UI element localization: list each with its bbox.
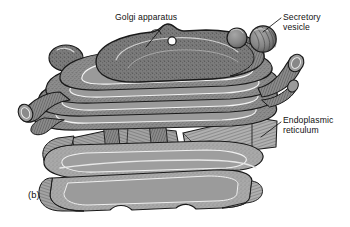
figure-panel: Golgi apparatus Secretoryvesicle Endopla… xyxy=(0,0,350,227)
label-secretory-vesicle-line2: vesicle xyxy=(283,22,310,32)
label-secretory-vesicle: Secretoryvesicle xyxy=(283,12,321,33)
label-endoplasmic-reticulum: Endoplasmicreticulum xyxy=(283,115,333,136)
figure-panel-label: (b) xyxy=(28,190,40,200)
label-endoplasmic-reticulum-line2: reticulum xyxy=(283,125,319,135)
label-endoplasmic-reticulum-line1: Endoplasmic xyxy=(283,115,333,125)
label-secretory-vesicle-line1: Secretory xyxy=(283,12,321,22)
endoplasmic-reticulum-group xyxy=(39,117,277,211)
golgi-apparatus-illustration xyxy=(0,0,350,227)
label-golgi-apparatus: Golgi apparatus xyxy=(115,12,177,22)
secretory-vesicle-small xyxy=(227,28,247,48)
golgi-pore xyxy=(168,37,176,45)
